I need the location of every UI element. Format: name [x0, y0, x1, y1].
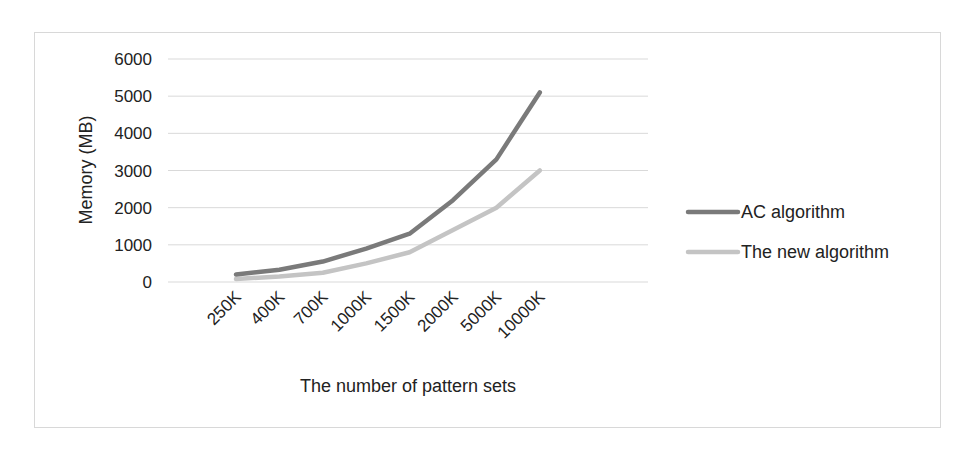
y-axis-ticks: 0100020003000400050006000 — [114, 50, 152, 292]
x-tick-label: 2000K — [414, 287, 463, 336]
x-axis-title: The number of pattern sets — [300, 376, 516, 396]
y-axis-title: Memory (MB) — [76, 116, 96, 225]
legend: AC algorithmThe new algorithm — [688, 202, 889, 262]
y-tick-label: 1000 — [114, 236, 152, 255]
x-tick-label: 10000K — [494, 287, 549, 342]
legend-label: The new algorithm — [741, 242, 889, 262]
y-tick-label: 2000 — [114, 199, 152, 218]
x-tick-label: 1500K — [370, 287, 419, 336]
legend-label: AC algorithm — [741, 202, 845, 222]
x-tick-label: 1000K — [327, 287, 376, 336]
x-axis-ticks: 250K400K700K1000K1500K2000K5000K10000K — [203, 287, 549, 342]
gridlines — [168, 59, 648, 282]
line-chart: 0100020003000400050006000 250K400K700K10… — [0, 0, 976, 454]
x-tick-label: 250K — [203, 287, 245, 329]
series-line — [236, 171, 540, 280]
y-tick-label: 4000 — [114, 124, 152, 143]
series-line — [236, 92, 540, 274]
y-tick-label: 6000 — [114, 50, 152, 69]
y-tick-label: 0 — [143, 273, 152, 292]
x-tick-label: 400K — [247, 287, 289, 329]
x-tick-label: 700K — [290, 287, 332, 329]
y-tick-label: 5000 — [114, 87, 152, 106]
y-tick-label: 3000 — [114, 162, 152, 181]
series-lines — [236, 92, 540, 279]
